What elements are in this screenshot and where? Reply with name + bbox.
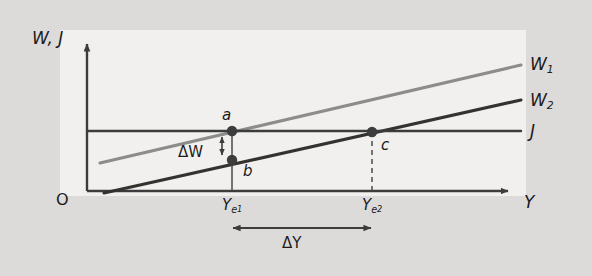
x-tick-ye1-base: Y <box>222 196 231 214</box>
point-label-c: c <box>381 138 389 153</box>
curve-label-w1: W1 <box>530 56 554 76</box>
x-tick-ye2-base: Y <box>362 196 371 214</box>
y-axis-label: W, J <box>32 30 63 47</box>
delta-w-label: ΔW <box>178 145 203 160</box>
delta-y-label: ΔY <box>282 236 301 251</box>
x-axis-label: Y <box>524 194 534 211</box>
x-tick-ye1-sub2: 1 <box>237 204 242 214</box>
origin-label: O <box>56 192 69 208</box>
curve-label-w1-sub: 1 <box>547 63 554 76</box>
point-label-a: a <box>222 108 231 123</box>
curve-label-w2-base: W <box>530 90 547 110</box>
point-c-marker <box>367 127 377 137</box>
curve-label-w2-sub: 2 <box>547 99 554 112</box>
curve-label-w2: W2 <box>530 92 554 112</box>
curve-label-j: J <box>530 123 535 140</box>
curve-label-w1-base: W <box>530 54 547 74</box>
x-tick-ye2-sub2: 2 <box>377 204 382 214</box>
x-tick-label-ye2: Ye2 <box>362 198 382 214</box>
point-label-b: b <box>243 164 253 179</box>
point-b-marker <box>227 155 237 165</box>
point-a-marker <box>227 126 237 136</box>
economics-diagram-figure: W, J Y O W1 W2 J a b c ΔW ΔY Ye1 Ye2 <box>0 0 592 276</box>
x-tick-label-ye1: Ye1 <box>222 198 242 214</box>
